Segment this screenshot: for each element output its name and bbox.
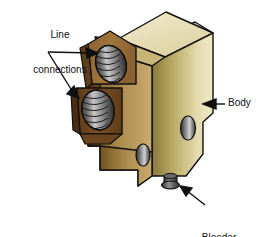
label-line-connections: Line connections (18, 6, 102, 98)
right-hole (181, 116, 196, 140)
illustration-stage: Line connections Body Bleeder stem (0, 0, 271, 237)
label-bleeder-stem-line1: Bleeder (186, 232, 252, 237)
label-bleeder-stem: Bleeder stem (186, 209, 252, 237)
bottom-hole (136, 144, 150, 166)
label-line-connections-line2: connections (18, 64, 102, 76)
label-body: Body (228, 97, 251, 109)
bleeder-stem-leader (180, 186, 205, 205)
label-line-connections-line1: Line (18, 29, 102, 41)
bleeder-stem (162, 173, 180, 189)
